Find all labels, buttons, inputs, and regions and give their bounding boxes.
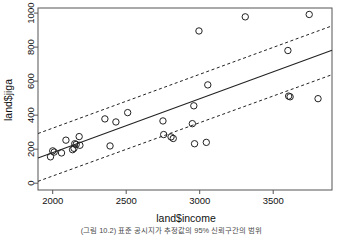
y-tick-label: 600 [26,73,37,89]
figure-container: 02004006008001000 2000250030003500 land$… [0,0,343,235]
data-point [189,120,195,126]
y-axis-title: land$jiga [2,79,14,121]
data-point [196,28,202,34]
data-point [63,137,69,143]
y-tick-label: 800 [26,39,37,55]
scatter-plot: 02004006008001000 2000250030003500 land$… [0,0,343,235]
x-tick-label: 3500 [263,195,284,206]
data-points [47,11,321,160]
x-tick-label: 3000 [189,195,210,206]
lower-confidence-band [38,75,332,182]
data-point [205,82,211,88]
data-point [242,14,248,20]
data-point [306,11,312,17]
figure-caption: (그림 10.2) 표준 공시지가 추정값의 95% 신뢰구간의 범위 [0,226,343,235]
data-point [168,134,174,140]
data-point [315,95,321,101]
data-point [191,141,197,147]
data-point [107,143,113,149]
x-tick-label: 2500 [116,195,137,206]
x-tick-label: 2000 [42,195,63,206]
regression-line [38,50,332,158]
data-point [102,116,108,122]
data-point [124,109,130,115]
x-axis-ticks: 2000250030003500 [42,190,284,206]
data-point [76,133,82,139]
y-tick-label: 1000 [26,3,37,24]
data-point [113,119,119,125]
y-tick-label: 400 [26,107,37,123]
data-point [160,118,166,124]
data-point [170,135,176,141]
upper-confidence-band [38,26,332,134]
y-axis-ticks: 02004006008001000 [26,3,39,186]
y-tick-label: 200 [26,141,37,157]
fit-line [38,50,332,158]
x-axis-title: land$income [156,212,216,224]
data-point [203,139,209,145]
data-point [191,103,197,109]
data-point [285,47,291,53]
data-point [58,150,64,156]
y-tick-label: 0 [26,181,37,186]
